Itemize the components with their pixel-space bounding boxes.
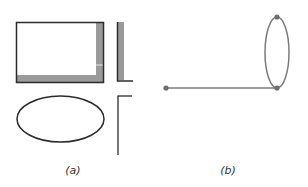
graph-node-top bbox=[274, 14, 279, 19]
ellipse-outline bbox=[17, 96, 104, 142]
panel-a: (a) bbox=[17, 22, 134, 177]
diagram-canvas: (a) (b) bbox=[0, 0, 308, 187]
panel-a-label: (a) bbox=[65, 164, 80, 177]
rectangle-outline bbox=[17, 23, 104, 83]
panel-b: (b) bbox=[163, 14, 289, 177]
shaded-rectangle bbox=[17, 23, 104, 83]
graph-node-bottom bbox=[274, 85, 279, 90]
l-shape-shade bbox=[118, 22, 124, 80]
graph-node-left bbox=[163, 85, 168, 90]
inverted-l-shape bbox=[117, 96, 132, 155]
graph-edge-loop bbox=[265, 17, 289, 88]
panel-b-label: (b) bbox=[220, 164, 236, 177]
l-shape bbox=[117, 22, 133, 82]
rectangle-right-shade bbox=[96, 23, 103, 82]
rectangle-bottom-shade bbox=[17, 75, 103, 82]
